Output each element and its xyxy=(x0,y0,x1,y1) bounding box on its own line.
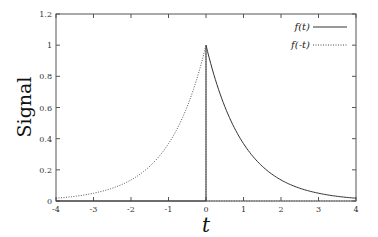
x-tick-label: -3 xyxy=(90,205,98,214)
y-tick-label: 0.2 xyxy=(39,166,52,175)
y-tick-label: 1 xyxy=(47,41,52,50)
x-tick-label: 3 xyxy=(316,205,321,214)
y-tick-label: 0.4 xyxy=(39,135,52,144)
chart: -4-3-2-10123400.20.40.60.811.2 Signal t … xyxy=(0,0,378,237)
y-tick-label: 0.6 xyxy=(39,104,52,113)
x-tick-label: -2 xyxy=(127,205,135,214)
y-tick-label: 0.8 xyxy=(39,72,52,81)
x-tick-label: 1 xyxy=(241,205,246,214)
x-tick-label: -1 xyxy=(165,205,173,214)
series-line-f-t xyxy=(56,45,356,201)
x-tick-label: 4 xyxy=(353,205,358,214)
legend-label-f-neg-t: f(-t) xyxy=(290,39,310,50)
y-tick-label: 0 xyxy=(47,197,52,206)
series-group xyxy=(56,45,356,201)
x-tick-label: 2 xyxy=(278,205,283,214)
x-axis-title: t xyxy=(202,213,211,237)
legend-label-f-t: f(t) xyxy=(293,21,310,32)
y-tick-label: 1.2 xyxy=(39,10,52,19)
y-axis-title: Signal xyxy=(13,77,35,138)
legend: f(t) f(-t) xyxy=(290,21,347,50)
ticks: -4-3-2-10123400.20.40.60.811.2 xyxy=(39,10,358,214)
x-tick-label: -4 xyxy=(52,205,60,214)
